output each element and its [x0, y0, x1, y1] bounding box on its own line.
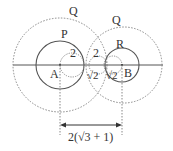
label-p: P	[61, 28, 68, 40]
label-a: A	[50, 68, 59, 80]
label-radius-a: 2	[70, 47, 76, 59]
arrowhead-right	[116, 123, 122, 128]
label-b: B	[124, 67, 132, 79]
label-q-right: Q	[112, 14, 121, 26]
label-q-left: Q	[69, 5, 78, 17]
label-sqrt2-left: √2	[87, 70, 99, 81]
label-distance: 2(√3 + 1)	[68, 131, 113, 143]
label-sqrt2-right: √2	[106, 70, 118, 81]
label-radius-mid: 2	[93, 47, 99, 59]
label-r: R	[116, 38, 124, 50]
arrowhead-left	[60, 123, 66, 128]
